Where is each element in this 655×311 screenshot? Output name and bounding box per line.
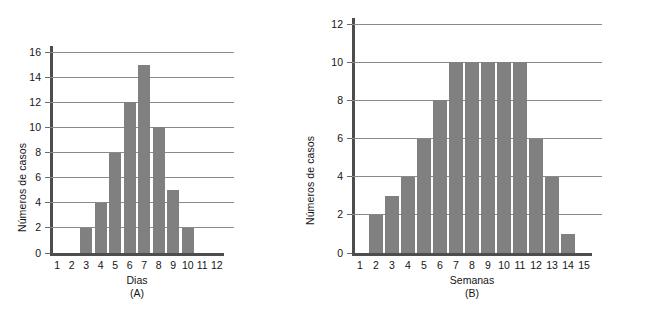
- y-axis-tick-label: 12: [16, 97, 41, 108]
- chart-panel-b: Números de casos 024681012 1234567891011…: [290, 0, 655, 311]
- panel-caption-a: (A): [50, 287, 224, 299]
- gridline: [352, 24, 602, 25]
- y-axis-tick-label: 14: [16, 72, 41, 83]
- bar: [529, 139, 543, 254]
- y-axis-tick-label: 2: [16, 222, 41, 233]
- y-axis-tick: [347, 62, 352, 63]
- x-axis-line-b: [352, 253, 592, 256]
- bar: [497, 62, 511, 253]
- bar: [124, 102, 136, 253]
- y-axis-tick: [45, 152, 50, 153]
- bar: [433, 100, 447, 253]
- bar: [138, 65, 150, 253]
- bar: [182, 228, 194, 253]
- y-axis-tick: [347, 253, 352, 254]
- bar: [417, 139, 431, 254]
- y-axis-tick-label: 2: [318, 209, 343, 220]
- y-axis-tick-label: 0: [16, 248, 41, 259]
- y-axis-tick: [45, 253, 50, 254]
- y-axis-tick-label: 8: [318, 95, 343, 106]
- y-axis-tick-label: 0: [318, 248, 343, 259]
- y-axis-tick-label: 10: [318, 57, 343, 68]
- y-axis-tick: [347, 214, 352, 215]
- y-axis-label-b: Números de casos: [304, 136, 316, 225]
- y-axis-tick: [347, 100, 352, 101]
- panel-caption-b: (B): [352, 287, 592, 299]
- bar: [153, 127, 165, 253]
- x-axis-label-a: Dias: [50, 274, 224, 286]
- chart-panel-a: Números de casos 0246810121416 123456789…: [0, 0, 330, 311]
- bar: [401, 177, 415, 253]
- bar: [80, 228, 92, 253]
- y-axis-tick: [347, 176, 352, 177]
- y-axis-tick-label: 6: [16, 172, 41, 183]
- plot-area-a: 0246810121416 123456789101112: [50, 52, 224, 253]
- y-axis-tick-label: 4: [318, 171, 343, 182]
- y-axis-tick: [45, 227, 50, 228]
- x-axis-label-b: Semanas: [352, 274, 592, 286]
- bar: [369, 215, 383, 253]
- y-axis-tick-label: 6: [318, 133, 343, 144]
- y-axis-tick: [45, 177, 50, 178]
- cut-off-caption-strip: [150, 303, 620, 311]
- y-axis-tick-label: 12: [318, 19, 343, 30]
- bar: [561, 234, 575, 253]
- y-axis-tick: [45, 52, 50, 53]
- bar: [167, 190, 179, 253]
- plot-area-b: 024681012 123456789101112131415: [352, 24, 592, 253]
- bar: [385, 196, 399, 253]
- x-axis-tick-label: 12: [206, 260, 229, 271]
- y-axis-tick: [45, 202, 50, 203]
- y-axis-tick-label: 4: [16, 197, 41, 208]
- figure-two-epidemic-curves: Números de casos 0246810121416 123456789…: [0, 0, 655, 311]
- y-axis-tick: [347, 138, 352, 139]
- bar: [545, 177, 559, 253]
- y-axis-line-b: [352, 18, 355, 254]
- bar: [449, 62, 463, 253]
- y-axis-tick: [45, 127, 50, 128]
- y-axis-tick-label: 16: [16, 47, 41, 58]
- x-axis-line-a: [50, 253, 224, 256]
- y-axis-tick-label: 10: [16, 122, 41, 133]
- y-axis-tick: [45, 102, 50, 103]
- bar: [481, 62, 495, 253]
- bar: [465, 62, 479, 253]
- y-axis-tick: [347, 24, 352, 25]
- bar: [109, 153, 121, 254]
- y-axis-tick: [45, 77, 50, 78]
- bar: [513, 62, 527, 253]
- y-axis-tick-label: 8: [16, 147, 41, 158]
- bar: [95, 203, 107, 253]
- gridline: [50, 52, 234, 53]
- x-axis-tick-label: 15: [572, 260, 596, 271]
